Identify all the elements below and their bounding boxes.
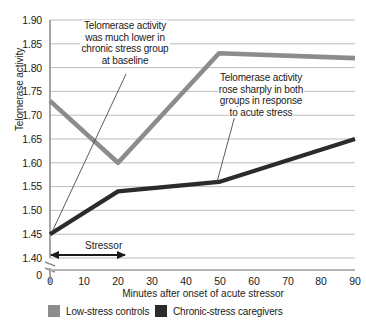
annotation-acute-line2: rose sharply in both bbox=[218, 84, 304, 95]
annotation-baseline: Telomerase activity was much lower in ch… bbox=[62, 20, 188, 66]
annotation-acute-line4: to acute stress bbox=[229, 107, 294, 118]
annotation-acute-line3: groups in response bbox=[219, 95, 303, 106]
legend-item-low-stress-controls: Low-stress controls bbox=[48, 305, 149, 317]
annotation-acute-line1: Telomerase activity bbox=[219, 72, 303, 83]
legend-swatch-icon-low-stress bbox=[48, 305, 60, 317]
annotation-baseline-line1: Telomerase activity bbox=[83, 20, 167, 31]
legend-label-chronic-stress: Chronic-stress caregivers bbox=[173, 306, 283, 317]
legend-label-low-stress: Low-stress controls bbox=[66, 306, 149, 317]
telomerase-activity-chart: Telomerase activity 1.90 1.85 1.80 1.75 … bbox=[0, 0, 366, 324]
annotation-baseline-line3: chronic stress group bbox=[80, 43, 169, 54]
annotation-acute-stress: Telomerase activity rose sharply in both… bbox=[198, 72, 324, 118]
legend-swatch-icon-chronic-stress bbox=[155, 305, 167, 317]
annotation-baseline-line4: at baseline bbox=[101, 55, 150, 66]
legend-item-chronic-stress-caregivers: Chronic-stress caregivers bbox=[155, 305, 283, 317]
stressor-span-label: Stressor bbox=[85, 240, 122, 251]
annotation-baseline-line2: was much lower in bbox=[84, 32, 166, 43]
